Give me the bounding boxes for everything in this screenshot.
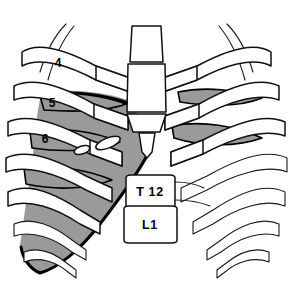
rib-5-label: 5 [49,96,56,110]
rib-6-label: 6 [42,132,49,146]
vertebra-l1-label: L1 [142,218,158,232]
vertebra-t12-label: T 12 [136,185,163,199]
sternum-body [127,64,166,112]
rib-4-label: 4 [55,56,62,70]
anatomy-illustration: 4 5 6 T 12 L1 [0,0,293,284]
manubrium [130,26,163,62]
ribs-right [163,24,287,278]
rib-cage-figure: 4 5 6 T 12 L1 [0,0,293,284]
